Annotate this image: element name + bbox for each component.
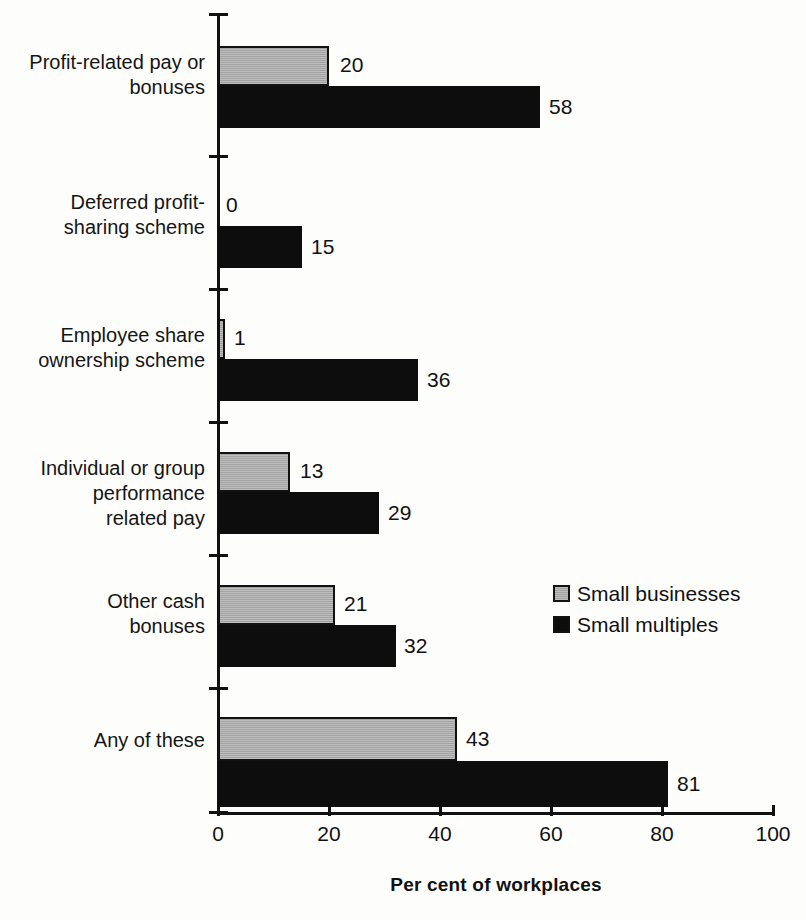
category-label-line: Employee share [0,323,205,348]
category-label-line: performance [0,481,205,506]
bar-small-businesses [218,585,335,625]
x-axis-tick-label-0: 0 [212,822,224,846]
category-label-line: ownership scheme [0,348,205,373]
bar-value-label: 20 [340,53,363,77]
x-axis-title: Per cent of workplaces [217,874,775,896]
bar-value-label: 36 [427,368,450,392]
category-label-line: sharing scheme [0,215,205,240]
category-axis-tick [209,554,228,557]
category-label-line: bonuses [0,75,205,100]
bar-small-businesses [218,452,290,492]
category-label-line: related pay [0,506,205,531]
x-axis-tick-label-40: 40 [428,822,451,846]
bar-value-label: 81 [677,772,700,796]
category-axis-tick [209,13,228,16]
category-label-line: Other cash [0,589,205,614]
bar-value-label: 21 [344,592,367,616]
bar-small-multiples [218,86,540,128]
legend-label: Small businesses [577,582,740,606]
bar-value-label: 0 [226,193,238,217]
category-axis-tick [209,687,228,690]
bar-small-multiples [218,625,396,667]
category-label-line: Individual or group [0,456,205,481]
category-label: Other cash bonuses [0,589,205,639]
bar-chart: 0 20 40 60 80 100 Per cent of workplaces… [0,0,806,920]
bar-value-label: 29 [388,501,411,525]
legend-item-small-multiples: Small multiples [553,609,740,640]
bar-small-businesses [218,717,457,761]
category-label: Individual or group performance related … [0,456,205,531]
category-label-line: bonuses [0,614,205,639]
x-axis-tick-label-100: 100 [755,822,790,846]
black-square-icon [553,616,570,633]
category-label-line: Deferred profit- [0,190,205,215]
x-axis-tick-label-60: 60 [539,822,562,846]
x-axis-tick-100 [772,805,775,816]
bar-small-multiples [218,761,668,807]
x-axis-tick-label-80: 80 [650,822,673,846]
category-axis-tick [209,155,228,158]
x-axis-tick-label-20: 20 [317,822,340,846]
category-axis-line [217,14,220,812]
value-axis-line [217,812,775,815]
bar-value-label: 43 [466,727,489,751]
bar-value-label: 13 [300,459,323,483]
bar-small-multiples [218,492,379,534]
bar-small-businesses [218,319,225,359]
bar-value-label: 58 [549,95,572,119]
bar-small-multiples [218,226,302,268]
category-axis-tick [209,421,228,424]
chart-legend: Small businesses Small multiples [553,578,740,640]
bar-value-label: 15 [311,235,334,259]
category-axis-tick [209,288,228,291]
category-label: Employee share ownership scheme [0,323,205,373]
bar-small-multiples [218,359,418,401]
bar-small-businesses [218,46,329,86]
light-gray-square-icon [553,585,570,602]
legend-label: Small multiples [577,613,718,637]
bar-value-label: 32 [404,634,427,658]
category-label-line: Profit-related pay or [0,50,205,75]
category-label-line: Any of these [0,728,205,753]
category-label: Profit-related pay or bonuses [0,50,205,100]
legend-item-small-businesses: Small businesses [553,578,740,609]
category-label: Deferred profit- sharing scheme [0,190,205,240]
bar-value-label: 1 [234,326,246,350]
category-label: Any of these [0,728,205,753]
